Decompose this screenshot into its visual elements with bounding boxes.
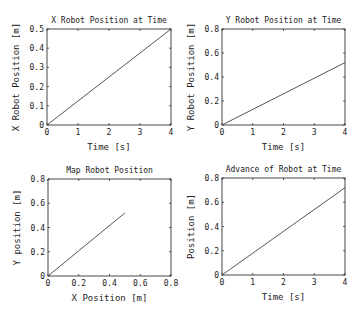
y-tick-label: 0 (214, 271, 219, 280)
y-axis-label: Y Robot Position [m] (186, 23, 196, 131)
chart-title: X Robot Position at Time (51, 16, 167, 25)
x-tick-label: 0.8 (164, 279, 179, 288)
y-tick-label: 0.2 (31, 248, 46, 257)
subplot-y-position-vs-time: Y Robot Position at Time Time [s] Y Robo… (186, 16, 348, 152)
x-tick-label: 0 (46, 279, 51, 288)
x-tick-label: 2 (107, 128, 112, 137)
y-tick-label: 0 (214, 121, 219, 130)
x-axis-label: Time [s] (87, 142, 130, 152)
y-axis-label: Position [m] (186, 194, 196, 259)
y-tick-label: 0.4 (205, 223, 220, 232)
y-tick-label: 0.6 (205, 49, 220, 58)
figure-canvas: X Robot Position at Time Time [s] X Robo… (0, 0, 361, 318)
x-tick-label: 3 (312, 278, 317, 287)
x-tick-label: 2 (281, 128, 286, 137)
y-tick-label: 0.4 (30, 44, 45, 53)
y-tick-label: 0.4 (31, 224, 46, 233)
x-tick-label: 0.2 (72, 279, 87, 288)
y-axis-label: Y position [m] (12, 190, 22, 266)
x-tick-label: 1 (76, 128, 81, 137)
y-tick-label: 0.6 (31, 199, 46, 208)
y-tick-label: 0.1 (30, 102, 45, 111)
y-tick-label: 0 (40, 272, 45, 281)
chart-title: Advance of Robot at Time (226, 165, 342, 174)
x-tick-label: 4 (169, 128, 174, 137)
y-tick-label: 0.8 (31, 175, 46, 184)
subplot-advance-vs-time: Advance of Robot at Time Time [s] Positi… (186, 165, 348, 302)
x-axis-label: Time [s] (262, 292, 305, 302)
y-tick-label: 0.2 (205, 97, 220, 106)
chart-title: Y Robot Position at Time (226, 16, 342, 25)
x-tick-label: 3 (312, 128, 317, 137)
y-tick-label: 0.3 (30, 63, 45, 72)
x-tick-label: 1 (250, 278, 255, 287)
x-tick-label: 0 (45, 128, 50, 137)
axes-frame (222, 178, 345, 275)
series-line (222, 63, 345, 125)
x-tick-label: 4 (343, 278, 348, 287)
y-tick-label: 0.2 (205, 247, 220, 256)
x-tick-label: 1 (250, 128, 255, 137)
y-tick-label: 0 (39, 121, 44, 130)
y-tick-label: 0.4 (205, 73, 220, 82)
x-tick-label: 3 (138, 128, 143, 137)
y-tick-label: 0.2 (30, 83, 45, 92)
y-tick-label: 0.8 (205, 25, 220, 34)
y-tick-label: 0.6 (205, 198, 220, 207)
series-line (222, 188, 345, 275)
y-axis-label: X Robot Position [m] (11, 23, 21, 131)
y-tick-label: 0.8 (205, 174, 220, 183)
x-axis-label: X Position [m] (72, 293, 148, 303)
x-tick-label: 0.4 (102, 279, 117, 288)
y-tick-label: 0.5 (30, 25, 45, 34)
x-tick-label: 0 (220, 278, 225, 287)
x-tick-label: 4 (343, 128, 348, 137)
x-tick-label: 0.6 (133, 279, 148, 288)
x-tick-label: 2 (281, 278, 286, 287)
x-tick-label: 0 (220, 128, 225, 137)
series-line (48, 213, 125, 276)
axes-frame (222, 29, 345, 125)
chart-title: Map Robot Position (66, 166, 153, 175)
series-line (47, 29, 171, 125)
x-axis-label: Time [s] (262, 142, 305, 152)
subplot-x-position-vs-time: X Robot Position at Time Time [s] X Robo… (11, 16, 174, 152)
subplot-map-robot-position: Map Robot Position X Position [m] Y posi… (12, 166, 178, 303)
